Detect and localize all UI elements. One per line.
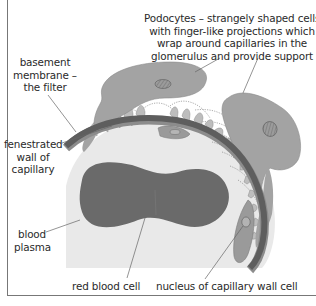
label-podocytes-line-4: glomerulus and provide support — [144, 50, 316, 63]
podocyte-top-nucleus — [155, 80, 171, 89]
label-fenestrated-wall-line-2: wall of — [4, 151, 62, 164]
label-nucleus-capillary-wall-cell: nucleus of capillary wall cell — [156, 280, 298, 293]
label-basement-membrane: basement membrane – the filter — [12, 56, 78, 94]
label-basement-membrane-line-1: basement — [12, 56, 78, 69]
label-podocytes: Podocytes – strangely shaped cells with … — [144, 12, 316, 62]
label-podocytes-line-3: wrap around capillaries in the — [144, 37, 316, 50]
label-basement-membrane-line-3: the filter — [12, 81, 78, 94]
label-red-blood-cell: red blood cell — [72, 280, 140, 293]
label-fenestrated-wall-line-3: capillary — [4, 163, 62, 176]
label-blood-plasma-line-1: blood — [14, 228, 50, 241]
capillary-wall-cell-nucleus — [242, 217, 250, 227]
label-fenestrated-wall-line-1: fenestrated — [4, 138, 62, 151]
label-fenestrated-wall: fenestrated wall of capillary — [4, 138, 62, 176]
label-blood-plasma: blood plasma — [14, 228, 50, 253]
label-podocytes-line-2: with finger-like projections which — [144, 25, 316, 38]
label-podocytes-line-1: Podocytes – strangely shaped cells — [144, 12, 316, 25]
label-blood-plasma-line-2: plasma — [14, 241, 50, 254]
label-basement-membrane-line-2: membrane – — [12, 69, 78, 82]
